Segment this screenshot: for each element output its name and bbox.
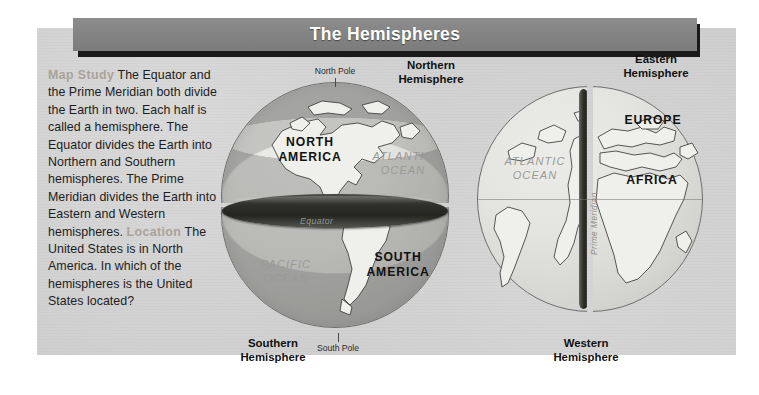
map-study-kicker: Map Study bbox=[48, 68, 114, 82]
map-study-body: The Equator and the Prime Meridian both … bbox=[48, 68, 217, 239]
label-south-america: SOUTHAMERICA bbox=[356, 250, 440, 279]
label-western-hemisphere: WesternHemisphere bbox=[530, 336, 642, 364]
title-bar: The Hemispheres bbox=[73, 18, 697, 51]
label-north-pole: North Pole bbox=[297, 66, 373, 76]
south-pole-tick bbox=[338, 333, 339, 342]
globe-northern-southern bbox=[221, 82, 449, 328]
label-prime-meridian: Prime Meridian bbox=[589, 192, 599, 255]
page-canvas: The Hemispheres Map Study The Equator an… bbox=[0, 0, 759, 395]
label-south-pole: South Pole bbox=[300, 343, 376, 353]
map-study-text: Map Study The Equator and the Prime Meri… bbox=[48, 67, 220, 311]
label-atlantic-ocean-west: ATLANTICOCEAN bbox=[498, 155, 572, 182]
label-north-america: NORTHAMERICA bbox=[268, 135, 352, 164]
label-africa: AFRICA bbox=[616, 173, 688, 188]
label-northern-hemisphere: NorthernHemisphere bbox=[372, 58, 490, 86]
label-europe: EUROPE bbox=[617, 113, 689, 128]
label-eastern-hemisphere: EasternHemisphere bbox=[600, 52, 712, 80]
location-kicker: Location bbox=[126, 225, 181, 239]
label-atlantic-ocean: ATLANTICOCEAN bbox=[366, 150, 440, 177]
label-pacific-ocean: PACIFICOCEAN bbox=[250, 258, 322, 285]
label-equator: Equator bbox=[300, 216, 333, 226]
page-title: The Hemispheres bbox=[310, 24, 460, 45]
equator-cut-face bbox=[222, 194, 448, 228]
north-pole-tick bbox=[335, 78, 336, 87]
